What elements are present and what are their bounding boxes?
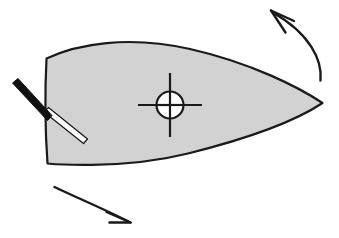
diagram-canvas — [0, 0, 339, 238]
boat-hull-diagram — [0, 0, 339, 238]
